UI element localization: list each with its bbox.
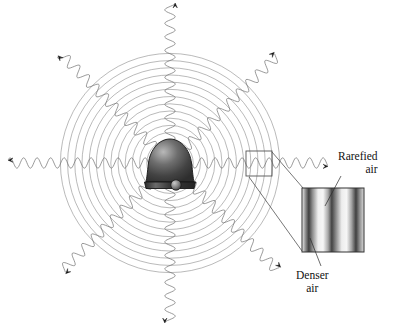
air-density-bands — [302, 188, 364, 252]
bell-rim — [145, 182, 196, 189]
denser-air-label: Denser air — [296, 269, 329, 294]
denser-air-label-line-2: air — [296, 282, 329, 295]
magnified-air-density-box — [302, 188, 364, 252]
sound-wave-diagram: Rarefied air Denser air — [0, 0, 404, 327]
ray-up-right — [176, 54, 278, 159]
ray-up-right-arrowhead — [269, 52, 274, 57]
ray-down-right-arrowhead — [276, 262, 281, 267]
rarefied-air-label: Rarefied air — [338, 150, 378, 175]
ray-left — [8, 158, 162, 168]
denser-air-label-line-1: Denser — [296, 269, 329, 282]
ray-up-left — [58, 56, 166, 158]
ray-down-left-arrowhead — [66, 269, 71, 274]
rarefied-air-label-line-1: Rarefied — [338, 150, 378, 163]
connector-line-top — [272, 152, 303, 188]
bell-clapper — [171, 180, 181, 190]
ray-down-arrowhead — [163, 318, 167, 323]
rarefied-air-label-line-2: air — [338, 163, 378, 176]
bell-icon — [145, 139, 196, 190]
connector-line-bottom — [249, 177, 302, 251]
bell-body — [146, 139, 194, 182]
ray-up-arrowhead — [173, 3, 177, 8]
